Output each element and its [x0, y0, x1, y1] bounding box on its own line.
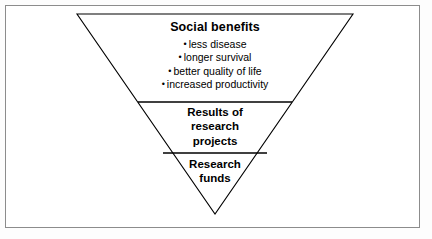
tier-funds-line: funds — [152, 171, 278, 185]
list-item: •longer survival — [86, 51, 344, 64]
tier-social-benefits: Social benefits •less disease •longer su… — [86, 20, 344, 92]
tier-research-funds: Research funds — [152, 157, 278, 186]
list-item: •increased productivity — [86, 78, 344, 91]
tier-funds-line: Research — [152, 157, 278, 171]
bullet-icon: • — [179, 52, 182, 62]
figure-root: Social benefits •less disease •longer su… — [0, 0, 432, 239]
list-item-label: better quality of life — [174, 65, 262, 77]
list-item: •better quality of life — [86, 65, 344, 78]
list-item-label: increased productivity — [167, 78, 269, 90]
bullet-icon: • — [168, 66, 171, 76]
bullet-icon: • — [184, 39, 187, 49]
tier-social-benefits-title: Social benefits — [86, 20, 344, 35]
bullet-icon: • — [162, 79, 165, 89]
social-benefits-list: •less disease •longer survival •better q… — [86, 38, 344, 92]
tier-results-line: Results of — [140, 105, 290, 119]
tier-results-line: research — [140, 119, 290, 133]
list-item-label: longer survival — [184, 51, 252, 63]
tier-results-of-research-projects: Results of research projects — [140, 105, 290, 148]
list-item-label: less disease — [189, 38, 247, 50]
list-item: •less disease — [86, 38, 344, 51]
tier-results-line: projects — [140, 134, 290, 148]
